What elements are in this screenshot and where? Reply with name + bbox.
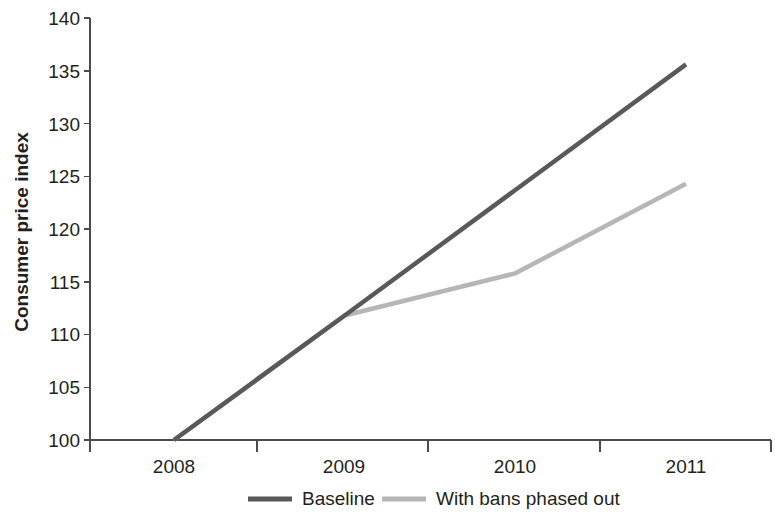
x-tick-label-2011: 2011 <box>666 456 707 477</box>
line-chart: Consumer price index 140 135 130 125 120… <box>0 0 775 516</box>
y-tick-label-110: 110 <box>50 324 80 345</box>
x-axis-ticks <box>90 440 771 452</box>
y-tick-label-130: 130 <box>48 114 80 135</box>
y-tick-label-120: 120 <box>48 219 80 240</box>
series-line-with-bans-phased-out <box>174 184 686 440</box>
chart-legend: Baseline With bans phased out <box>248 488 621 509</box>
y-tick-label-135: 135 <box>48 61 80 82</box>
y-tick-label-105: 105 <box>48 377 80 398</box>
chart-canvas: Consumer price index 140 135 130 125 120… <box>0 0 775 516</box>
series-line-baseline <box>174 64 686 440</box>
y-tick-label-125: 125 <box>48 166 80 187</box>
y-tick-label-100: 100 <box>48 430 80 451</box>
x-tick-label-2009: 2009 <box>323 456 365 477</box>
y-axis-title: Consumer price index <box>11 132 32 332</box>
legend-label-baseline: Baseline <box>302 488 375 509</box>
y-tick-label-140: 140 <box>48 8 80 29</box>
legend-label-with-bans-phased-out: With bans phased out <box>436 488 621 509</box>
y-tick-label-115: 115 <box>50 272 80 293</box>
x-tick-label-2008: 2008 <box>153 456 195 477</box>
y-axis-ticks <box>84 18 90 440</box>
x-tick-label-2010: 2010 <box>494 456 536 477</box>
